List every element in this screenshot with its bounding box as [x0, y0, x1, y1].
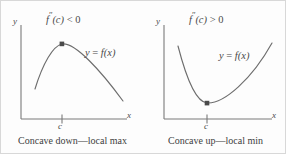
curve-label: y = f(x) — [85, 48, 115, 59]
panel-concave-down: f″(c) < 0 y x c y = f(x) Concave down—lo… — [1, 1, 144, 154]
x-axis-label: x — [127, 111, 131, 120]
x-tick-label-c: c — [58, 122, 62, 131]
second-derivative-condition: f″(c) > 0 — [189, 11, 223, 25]
panel-caption-concave-down: Concave down—local max — [1, 135, 144, 146]
x-axis-label: x — [272, 111, 276, 120]
local-max-point-marker — [60, 42, 65, 47]
panel-caption-concave-up: Concave up—local min — [144, 135, 286, 146]
panel-concave-up: f″(c) > 0 y x c y = f(x) Concave up—loca… — [144, 1, 286, 154]
x-tick-label-c: c — [204, 122, 208, 131]
local-min-point-marker — [205, 101, 210, 106]
curve-label: y = f(x) — [219, 51, 249, 62]
y-axis-label: y — [156, 17, 160, 26]
concavity-figure: f″(c) < 0 y x c y = f(x) Concave down—lo… — [0, 0, 286, 154]
y-axis-label: y — [13, 17, 17, 26]
second-derivative-condition: f″(c) < 0 — [46, 11, 80, 25]
